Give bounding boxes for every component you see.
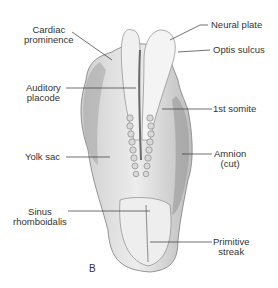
label-auditory-placode: Auditory placode bbox=[26, 83, 61, 103]
label-cardiac-prominence: Cardiac prominence bbox=[24, 25, 74, 45]
label-line: placode bbox=[26, 93, 61, 103]
label-line: rhomboidalis bbox=[13, 217, 67, 227]
label-amnion: Amnion (cut) bbox=[214, 149, 246, 169]
embryo-diagram: Cardiac prominence Auditory placode Yolk… bbox=[0, 0, 278, 288]
label-line: streak bbox=[213, 247, 249, 257]
label-neural-plate: Neural plate bbox=[211, 20, 262, 30]
panel-letter: B bbox=[89, 264, 96, 274]
label-sinus-rhomboidalis: Sinus rhomboidalis bbox=[13, 207, 67, 227]
label-line: prominence bbox=[24, 35, 74, 45]
label-primitive-streak: Primitive streak bbox=[213, 237, 249, 257]
label-line: (cut) bbox=[214, 159, 246, 169]
label-yolk-sac: Yolk sac bbox=[25, 152, 60, 162]
label-first-somite: 1st somite bbox=[213, 104, 256, 114]
label-optis-sulcus: Optis sulcus bbox=[213, 45, 265, 55]
